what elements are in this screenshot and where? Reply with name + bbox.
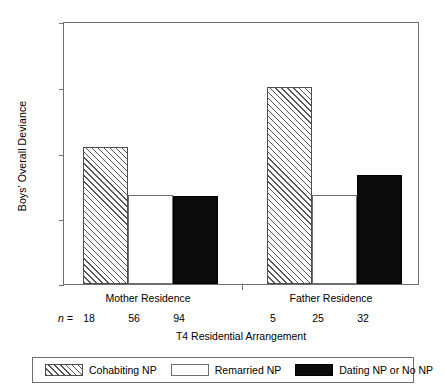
y-tick-mark [59, 155, 64, 156]
n-value-father-remarried: 25 [297, 312, 339, 324]
n-value-mother-dating: 94 [158, 312, 200, 324]
x-axis-title: T4 Residential Arrangement [63, 330, 419, 342]
n-value-mother-cohabiting: 18 [68, 312, 110, 324]
legend-entry-cohabiting-np: Cohabiting NP [45, 364, 157, 376]
legend-label: Cohabiting NP [89, 364, 157, 376]
chart-legend: Cohabiting NP Remarried NP Dating NP or … [32, 357, 414, 383]
legend-swatch-white-icon [171, 364, 209, 376]
plot-area: 35 30 25 20 15 [63, 22, 419, 285]
legend-swatch-hatch-icon [45, 364, 83, 376]
y-tick-mark [59, 89, 64, 90]
bar-father-dating-np-or-no-np [357, 175, 402, 284]
y-axis-title: Boys' Overall Deviance [16, 46, 28, 266]
legend-label: Remarried NP [215, 364, 282, 376]
chart-figure: Boys' Overall Deviance 35 30 25 20 15 [0, 0, 446, 391]
n-value-father-dating: 32 [342, 312, 384, 324]
n-value-father-cohabiting: 5 [252, 312, 294, 324]
bar-father-cohabiting-np [267, 87, 312, 284]
bar-mother-cohabiting-np [83, 147, 128, 284]
y-tick-mark [59, 220, 64, 221]
legend-swatch-black-icon [295, 364, 333, 376]
bar-father-remarried-np [312, 195, 357, 285]
y-tick-mark [59, 285, 64, 286]
x-category-label-mother-residence: Mother Residence [72, 292, 224, 304]
bar-mother-remarried-np [128, 195, 173, 285]
bar-mother-dating-np-or-no-np [173, 196, 218, 284]
legend-entry-dating-np-or-no-np: Dating NP or No NP [295, 364, 433, 376]
y-tick-mark [59, 23, 64, 24]
x-axis-group-separator [242, 284, 243, 290]
legend-entry-remarried-np: Remarried NP [171, 364, 282, 376]
x-category-label-father-residence: Father Residence [255, 292, 407, 304]
legend-label: Dating NP or No NP [339, 364, 433, 376]
n-value-mother-remarried: 56 [113, 312, 155, 324]
